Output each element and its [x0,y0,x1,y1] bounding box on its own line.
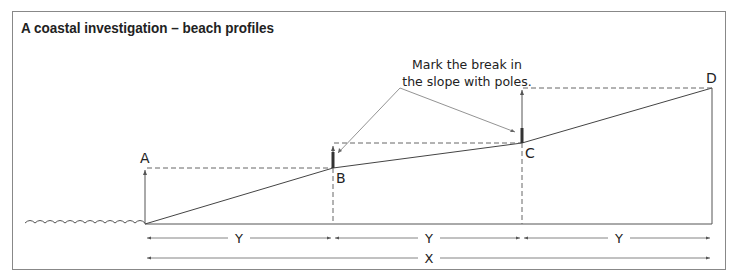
beach-profile-diagram: Mark the break in the slope with poles. … [0,0,740,274]
dimension-x: X [425,251,434,266]
point-label-d: D [706,70,717,86]
point-label-b: B [336,170,346,186]
dimension-y-2: Y [424,231,433,246]
point-label-c: C [525,145,535,161]
point-label-a: A [140,150,150,166]
sea-waves-icon [25,221,145,224]
beach-profile-line [145,88,712,224]
dimension-y-1: Y [234,231,243,246]
annotation-line-1: Mark the break in [412,57,522,72]
annotation-line-2: the slope with poles. [402,74,531,89]
dimension-y-3: Y [614,231,623,246]
